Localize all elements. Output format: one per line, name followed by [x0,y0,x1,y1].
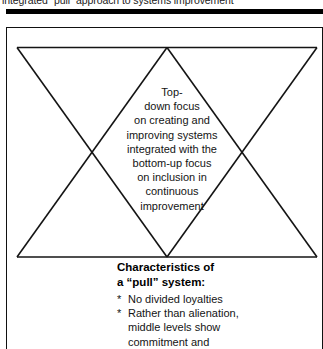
list-item: * No divided loyalties [117,292,317,306]
center-text-line: integrated with the [111,142,233,156]
characteristics-list: * No divided loyalties * Rather than ali… [117,292,317,349]
list-item-line: commitment and [128,335,317,349]
characteristics-heading-line: Characteristics of [117,260,317,275]
center-text-line: improving systems [111,128,233,142]
center-text-line: improvement [111,199,233,213]
center-text-line: Top- [111,85,233,99]
center-text-line: on inclusion in [111,170,233,184]
bullet-marker-icon: * [117,306,121,320]
diagram-center-text: Top- down focus on creating and improvin… [111,85,233,213]
characteristics-block: Characteristics of a “pull” system: * No… [117,260,317,349]
center-text-line: continuous [111,184,233,198]
list-item-line: Rather than alienation, [128,306,317,320]
horizontal-rule [6,9,323,14]
characteristics-heading-line: a “pull” system: [117,275,317,290]
center-text-line: bottom-up focus [111,156,233,170]
center-text-line: down focus [111,99,233,113]
list-item-line: No divided loyalties [128,292,317,306]
bullet-marker-icon: * [117,292,121,306]
characteristics-heading: Characteristics of a “pull” system: [117,260,317,289]
figure-frame: Top- down focus on creating and improvin… [6,27,323,349]
center-text-line: on creating and [111,113,233,127]
figure-caption-text: integrated “pull” approach to systems im… [2,0,233,6]
figure-caption-strip: integrated “pull” approach to systems im… [0,0,323,8]
list-item-line: middle levels show [128,320,317,334]
list-item: * Rather than alienation, middle levels … [117,306,317,349]
